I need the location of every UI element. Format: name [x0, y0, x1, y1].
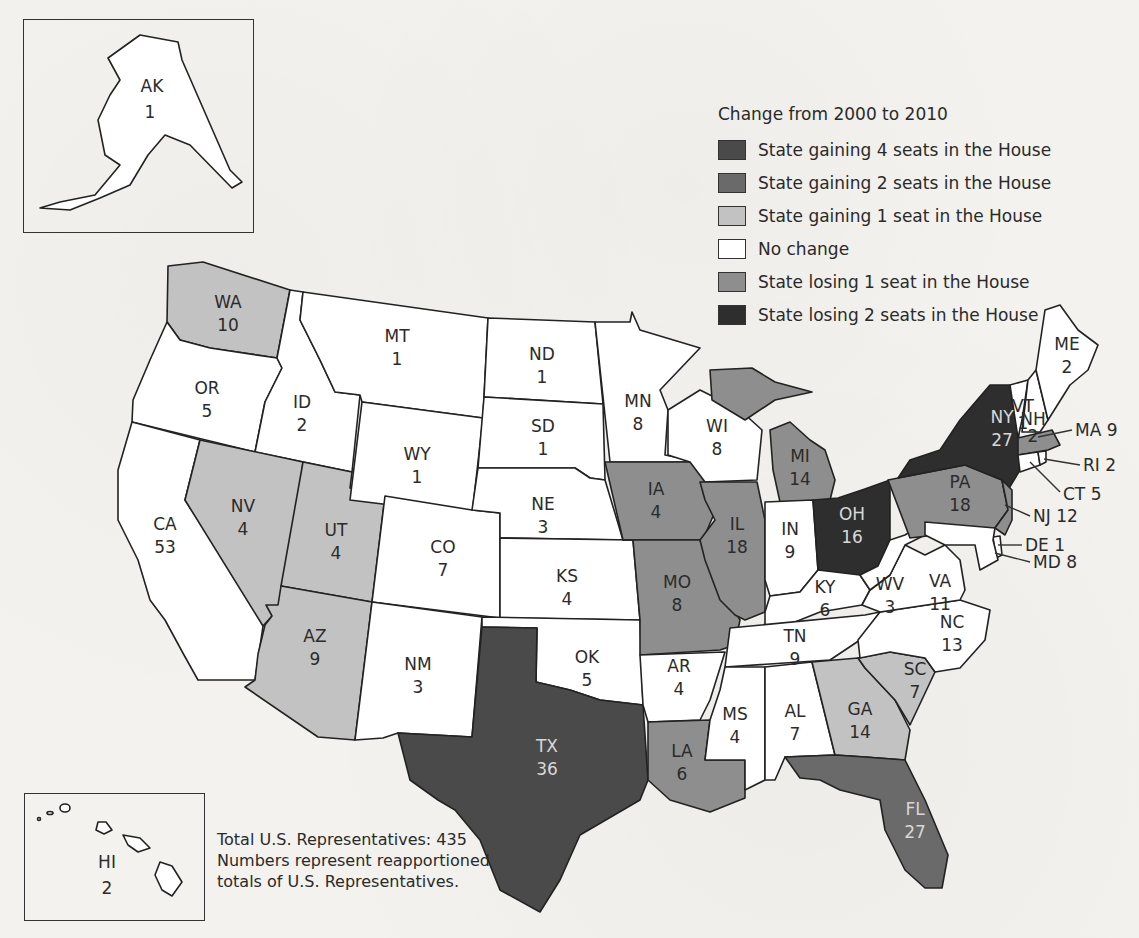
legend-label: State losing 2 seats in the House: [758, 305, 1038, 325]
state-label-id-abbr: ID: [293, 392, 311, 412]
state-label-ca-abbr: CA: [153, 514, 177, 534]
state-label-tn-seats: 9: [790, 649, 801, 669]
note-line2: Numbers represent reapportioned: [217, 850, 490, 871]
state-label-wv-seats: 3: [885, 597, 896, 617]
state-label-ak-seats: 1: [145, 102, 156, 122]
state-label-nd-seats: 1: [537, 367, 548, 387]
legend: Change from 2000 to 2010 State gaining 4…: [718, 104, 1051, 331]
state-label-il-seats: 18: [726, 537, 748, 557]
state-label-sd-seats: 1: [538, 439, 549, 459]
state-label-fl-abbr: FL: [905, 799, 925, 819]
state-label-mi-abbr: MI: [790, 446, 810, 466]
state-label-ok-abbr: OK: [575, 647, 600, 667]
legend-swatch: [718, 239, 746, 259]
leader-ri: [1044, 459, 1080, 465]
state-label-me-seats: 2: [1062, 357, 1073, 377]
state-label-wv-abbr: WV: [876, 574, 905, 594]
legend-swatch: [718, 140, 746, 160]
note-total: Total U.S. Representatives: 435: [217, 829, 490, 850]
state-label-oh-abbr: OH: [839, 504, 865, 524]
state-label-al-abbr: AL: [784, 701, 806, 721]
state-label-ga-abbr: GA: [848, 699, 873, 719]
state-label-wa-abbr: WA: [214, 292, 242, 312]
legend-swatch: [718, 305, 746, 325]
legend-item-no-change: No change: [718, 232, 1051, 265]
state-callout-md: MD 8: [1033, 552, 1077, 572]
state-co[interactable]: [372, 496, 500, 618]
state-label-nv-seats: 4: [238, 519, 249, 539]
state-label-or-seats: 5: [202, 401, 213, 421]
state-label-co-abbr: CO: [430, 537, 455, 557]
state-label-ok-seats: 5: [582, 670, 593, 690]
state-label-wa-seats: 10: [217, 315, 239, 335]
state-label-nc-abbr: NC: [940, 612, 965, 632]
state-label-mo-seats: 8: [672, 595, 683, 615]
state-label-ak-abbr: AK: [141, 76, 165, 96]
state-ri[interactable]: [1038, 451, 1046, 465]
legend-item-gain-1: State gaining 1 seat in the House: [718, 199, 1051, 232]
state-label-il-abbr: IL: [730, 514, 745, 534]
state-label-mi-seats: 14: [789, 469, 811, 489]
legend-swatch: [718, 206, 746, 226]
state-label-ny-abbr: NY: [990, 407, 1014, 427]
state-label-mt-abbr: MT: [384, 326, 410, 346]
state-label-mn-abbr: MN: [624, 391, 651, 411]
state-label-tn-abbr: TN: [782, 626, 806, 646]
state-label-az-seats: 9: [310, 649, 321, 669]
state-callout-nj: NJ 12: [1033, 506, 1078, 526]
legend-item-gain-4: State gaining 4 seats in the House: [718, 133, 1051, 166]
legend-label: No change: [758, 239, 849, 259]
state-label-ga-seats: 14: [849, 722, 871, 742]
state-label-ar-seats: 4: [674, 679, 685, 699]
legend-item-lose-2: State losing 2 seats in the House: [718, 298, 1051, 331]
state-label-nv-abbr: NV: [231, 496, 256, 516]
legend-label: State gaining 2 seats in the House: [758, 173, 1051, 193]
state-label-ut-abbr: UT: [325, 520, 348, 540]
state-label-al-seats: 7: [790, 724, 801, 744]
state-label-wi-abbr: WI: [706, 416, 728, 436]
note-line3: totals of U.S. Representatives.: [217, 871, 490, 892]
legend-label: State gaining 1 seat in the House: [758, 206, 1042, 226]
state-label-ms-seats: 4: [730, 727, 741, 747]
state-label-mn-seats: 8: [633, 414, 644, 434]
state-label-ia-seats: 4: [651, 502, 662, 522]
state-label-oh-seats: 16: [841, 527, 863, 547]
legend-item-lose-1: State losing 1 seat in the House: [718, 265, 1051, 298]
state-label-pa-seats: 18: [949, 495, 971, 515]
state-label-wi-seats: 8: [712, 439, 723, 459]
state-label-in-abbr: IN: [781, 519, 799, 539]
state-callout-ma: MA 9: [1075, 420, 1118, 440]
state-label-co-seats: 7: [438, 560, 449, 580]
state-label-va-abbr: VA: [929, 571, 952, 591]
legend-item-gain-2: State gaining 2 seats in the House: [718, 166, 1051, 199]
state-label-nm-abbr: NM: [404, 654, 431, 674]
state-label-id-seats: 2: [297, 415, 308, 435]
state-label-nc-seats: 13: [941, 635, 963, 655]
state-label-va-seats: 11: [929, 594, 951, 614]
state-label-ny-seats: 27: [991, 430, 1013, 450]
state-label-ky-abbr: KY: [815, 577, 837, 597]
state-label-me-abbr: ME: [1054, 334, 1079, 354]
state-label-tx-seats: 36: [536, 759, 558, 779]
legend-swatch: [718, 272, 746, 292]
legend-label: State gaining 4 seats in the House: [758, 140, 1051, 160]
state-ak[interactable]: [40, 35, 242, 210]
state-label-sc-seats: 7: [910, 682, 921, 702]
state-callout-ri: RI 2: [1083, 455, 1116, 475]
state-label-wy-abbr: WY: [403, 444, 431, 464]
legend-swatch: [718, 173, 746, 193]
state-label-pa-abbr: PA: [950, 472, 971, 492]
leader-ct: [1030, 462, 1060, 492]
state-label-mt-seats: 1: [392, 349, 403, 369]
legend-label: State losing 1 seat in the House: [758, 272, 1030, 292]
state-label-nd-abbr: ND: [529, 344, 555, 364]
state-label-la-abbr: LA: [671, 741, 693, 761]
state-label-nh-seats: 2: [1028, 426, 1039, 446]
state-label-mo-abbr: MO: [663, 572, 691, 592]
state-label-ks-seats: 4: [562, 589, 573, 609]
state-label-fl-seats: 27: [904, 822, 926, 842]
state-label-hi-seats: 2: [102, 878, 113, 898]
state-label-ar-abbr: AR: [667, 656, 691, 676]
state-label-sc-abbr: SC: [904, 659, 927, 679]
state-label-ne-abbr: NE: [531, 494, 554, 514]
